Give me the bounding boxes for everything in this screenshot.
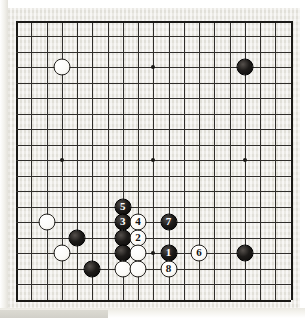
white-stone-j3[interactable] — [130, 260, 147, 277]
black-stone-f3[interactable] — [84, 260, 101, 277]
move-number-label: 8 — [166, 263, 172, 274]
page-corner-smudge — [0, 310, 108, 318]
go-board-grid[interactable]: 53427186 — [16, 21, 291, 301]
grid-line-horizontal-11 — [16, 176, 291, 177]
grid-line-horizontal-3 — [16, 52, 291, 53]
hoshi-star-point — [151, 158, 155, 162]
black-stone-e5[interactable] — [69, 229, 86, 246]
hoshi-star-point — [243, 158, 247, 162]
grid-line-horizontal-8 — [16, 129, 291, 130]
hoshi-star-point — [60, 158, 64, 162]
grid-line-vertical-19 — [291, 21, 293, 301]
move-number-label: 6 — [196, 247, 202, 258]
grid-line-horizontal-19 — [16, 300, 291, 302]
white-stone-j4[interactable] — [130, 245, 147, 262]
move-number-label: 7 — [166, 216, 172, 227]
white-move-4[interactable]: 4 — [130, 214, 147, 231]
grid-line-horizontal-15 — [16, 238, 291, 239]
grid-line-horizontal-1 — [16, 21, 291, 23]
black-stone-q16[interactable] — [236, 59, 253, 76]
grid-line-horizontal-14 — [16, 222, 291, 223]
black-move-5[interactable]: 5 — [114, 198, 131, 215]
white-move-2[interactable]: 2 — [130, 229, 147, 246]
white-stone-d4[interactable] — [53, 245, 70, 262]
hoshi-star-point — [151, 251, 155, 255]
grid-line-horizontal-9 — [16, 145, 291, 146]
move-number-label: 3 — [120, 216, 126, 227]
white-stone-c6[interactable] — [38, 214, 55, 231]
move-number-label: 1 — [166, 247, 172, 258]
white-move-8[interactable]: 8 — [160, 260, 177, 277]
white-stone-d16[interactable] — [53, 59, 70, 76]
move-number-label: 2 — [135, 232, 141, 243]
black-stone-q4[interactable] — [236, 245, 253, 262]
black-move-1[interactable]: 1 — [160, 245, 177, 262]
grid-line-horizontal-2 — [16, 36, 291, 37]
page-edge-shading-left — [0, 0, 8, 318]
move-number-label: 4 — [135, 216, 141, 227]
go-diagram-root: 53427186 — [0, 0, 305, 318]
black-move-7[interactable]: 7 — [160, 214, 177, 231]
grid-line-horizontal-6 — [16, 98, 291, 99]
grid-line-horizontal-18 — [16, 284, 291, 285]
move-number-label: 5 — [120, 201, 126, 212]
white-move-6[interactable]: 6 — [191, 245, 208, 262]
hoshi-star-point — [151, 65, 155, 69]
grid-line-horizontal-12 — [16, 191, 291, 192]
grid-line-horizontal-17 — [16, 269, 291, 270]
grid-line-horizontal-5 — [16, 83, 291, 84]
grid-line-horizontal-7 — [16, 114, 291, 115]
grid-line-horizontal-13 — [16, 207, 291, 208]
